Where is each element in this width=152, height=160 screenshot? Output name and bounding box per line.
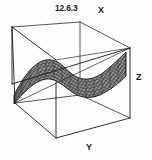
axis-label-y: Y — [86, 143, 92, 152]
figure-number: 12.6.3 — [55, 4, 77, 13]
figure-panel: 12.6.3 X Y Z — [0, 0, 152, 160]
surface-plot-svg — [0, 0, 152, 160]
axis-label-x: X — [98, 6, 104, 15]
axis-label-z: Z — [136, 73, 142, 82]
